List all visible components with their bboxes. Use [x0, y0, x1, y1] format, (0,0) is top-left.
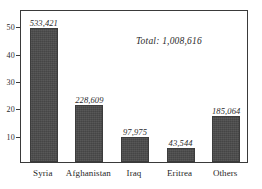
x-axis-label: Others [213, 168, 238, 178]
bar [75, 105, 103, 162]
bar [30, 28, 58, 162]
bar-value-label: 185,064 [212, 106, 240, 116]
y-axis-tick-label: 30 [7, 78, 15, 87]
x-axis-label: Eritrea [167, 168, 192, 178]
plot-area: 1020304050 533,421228,60997,97543,544185… [20, 10, 248, 163]
bar-value-label: 533,421 [30, 18, 58, 28]
bar-value-label: 228,609 [75, 95, 103, 105]
y-axis-tick-mark [16, 55, 21, 56]
y-axis-tick-mark [16, 109, 21, 110]
y-axis-tick-label: 10 [7, 132, 15, 141]
y-axis-tick-mark [16, 137, 21, 138]
bar-chart-figure: 1020304050 533,421228,60997,97543,544185… [0, 0, 262, 189]
y-axis-tick-label: 20 [7, 105, 15, 114]
bar [167, 148, 195, 162]
bar-value-label: 97,975 [123, 127, 147, 137]
total-annotation: Total: 1,008,616 [136, 36, 202, 46]
x-axis-label: Syria [33, 168, 53, 178]
x-axis-label: Iraq [127, 168, 142, 178]
bar [212, 116, 240, 162]
y-axis-tick-label: 40 [7, 50, 15, 59]
bar [121, 137, 149, 162]
x-axis-label: Afghanistan [66, 168, 111, 178]
y-axis-tick-label: 50 [7, 23, 15, 32]
y-axis-tick-mark [16, 27, 21, 28]
bar-value-label: 43,544 [169, 138, 193, 148]
y-axis-tick-mark [16, 82, 21, 83]
